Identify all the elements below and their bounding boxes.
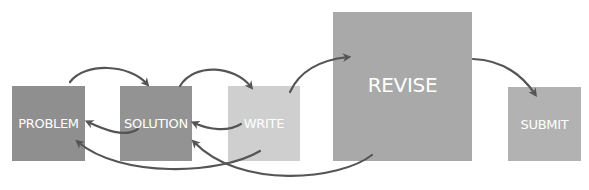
- node-write: WRITE: [228, 86, 300, 161]
- arrow-problem-to-solution: [70, 68, 147, 84]
- node-problem: PROBLEM: [12, 86, 85, 161]
- node-submit: SUBMIT: [508, 87, 581, 161]
- node-submit-label: SUBMIT: [521, 117, 569, 132]
- node-problem-label: PROBLEM: [18, 116, 79, 131]
- node-revise: REVISE: [333, 12, 472, 161]
- node-solution: SOLUTION: [120, 86, 192, 161]
- node-write-label: WRITE: [244, 116, 284, 131]
- node-solution-label: SOLUTION: [124, 116, 188, 131]
- node-revise-label: REVISE: [368, 73, 438, 97]
- arrow-solution-to-write: [180, 70, 251, 87]
